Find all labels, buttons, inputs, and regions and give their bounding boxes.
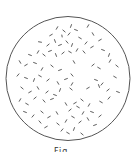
- particle: [37, 87, 39, 90]
- particle: [39, 42, 42, 43]
- particle: [87, 25, 89, 28]
- particle: [85, 42, 87, 44]
- particle: [17, 74, 19, 76]
- figure-caption: Fig. ...: [0, 147, 140, 152]
- particle: [59, 69, 62, 70]
- particle: [41, 68, 43, 71]
- particle: [69, 51, 72, 53]
- particle: [43, 54, 45, 56]
- particle: [67, 132, 70, 134]
- particle: [114, 76, 117, 78]
- particle: [33, 79, 34, 82]
- particle: [24, 111, 27, 112]
- particle: [100, 101, 103, 103]
- particle: [92, 33, 94, 36]
- particle: [55, 54, 56, 57]
- particle-group: [17, 25, 119, 135]
- particle: [21, 87, 23, 89]
- particle: [46, 91, 48, 93]
- particle: [88, 104, 90, 107]
- particle: [66, 41, 68, 43]
- particle: [34, 62, 37, 63]
- particle: [51, 65, 53, 67]
- particle: [39, 75, 42, 77]
- particle: [70, 25, 71, 28]
- particle: [49, 50, 52, 51]
- particle: [63, 30, 65, 32]
- particle: [98, 85, 99, 88]
- particle: [29, 54, 32, 55]
- particle: [39, 121, 41, 123]
- particle: [116, 65, 118, 67]
- particle: [71, 44, 72, 47]
- particle: [71, 74, 73, 76]
- particle: [75, 29, 78, 30]
- particle: [83, 51, 85, 53]
- particle: [65, 120, 67, 123]
- particle: [117, 91, 120, 92]
- particle: [48, 116, 51, 118]
- particle: [81, 99, 83, 101]
- particle: [82, 112, 84, 115]
- particle: [94, 124, 97, 125]
- particle: [76, 49, 78, 52]
- particle: [56, 112, 58, 115]
- particle: [92, 64, 94, 66]
- particle: [79, 121, 81, 123]
- particle: [65, 103, 67, 106]
- particle: [79, 37, 82, 39]
- particle: [47, 44, 49, 46]
- particle: [101, 83, 103, 85]
- particle: [54, 94, 57, 95]
- particle: [50, 34, 53, 36]
- particle: [108, 97, 110, 99]
- particle: [61, 129, 63, 131]
- particle: [62, 52, 64, 54]
- particle: [73, 61, 75, 64]
- particle: [77, 106, 80, 108]
- particle: [25, 77, 28, 78]
- particle: [56, 27, 58, 30]
- particle: [99, 39, 102, 41]
- particle: [57, 123, 59, 125]
- particle: [102, 49, 105, 50]
- particle: [51, 98, 54, 99]
- particle: [29, 91, 32, 93]
- particle: [87, 87, 90, 89]
- particle: [68, 33, 70, 35]
- particle: [87, 118, 89, 121]
- particle: [26, 103, 29, 105]
- particle: [19, 99, 21, 102]
- particle: [47, 79, 49, 81]
- microscope-field-diagram: [0, 0, 140, 152]
- particle: [41, 111, 43, 113]
- particle: [91, 46, 94, 48]
- particle: [72, 116, 75, 118]
- particle: [91, 111, 94, 112]
- particle: [81, 133, 83, 135]
- particle: [45, 126, 48, 128]
- particle: [37, 51, 39, 54]
- particle: [74, 102, 77, 104]
- particle: [19, 61, 21, 64]
- particle: [32, 115, 34, 117]
- particle: [71, 83, 73, 86]
- particle: [25, 64, 28, 66]
- particle: [43, 100, 45, 102]
- particle: [59, 44, 62, 45]
- particle: [34, 97, 36, 99]
- particle: [107, 89, 109, 91]
- particle: [99, 115, 101, 117]
- particle: [54, 40, 55, 43]
- particle: [109, 60, 111, 63]
- particle: [108, 54, 109, 57]
- particle: [59, 89, 60, 92]
- particle: [98, 67, 101, 69]
- particle: [73, 128, 74, 131]
- particle: [70, 88, 72, 90]
- particle: [95, 79, 98, 80]
- particle: [69, 109, 71, 111]
- particle: [65, 78, 68, 79]
- particle: [57, 82, 59, 85]
